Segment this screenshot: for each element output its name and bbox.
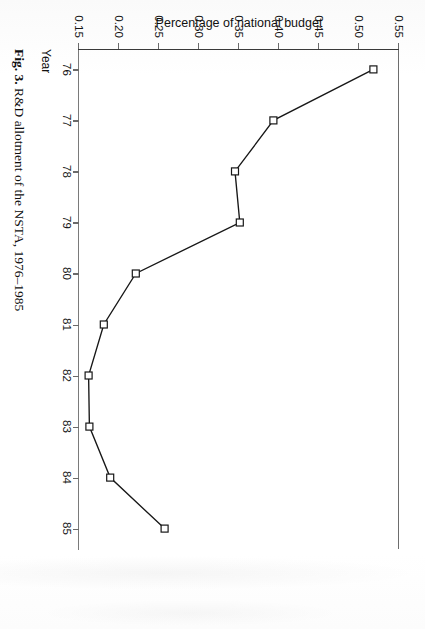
y-tick [358,43,359,49]
y-tick [78,43,79,49]
y-tick-label: 0.15 [73,15,85,38]
y-tick [158,43,159,49]
x-tick [73,69,79,70]
x-tick-label: 85 [61,522,73,535]
y-tick-label: 0.55 [393,15,405,38]
y-axis-line [78,49,399,50]
y-tick [118,43,119,49]
x-tick [73,273,79,274]
x-tick-label: 76 [61,63,73,76]
y-tick-label: 0.50 [353,15,365,38]
x-axis-line [78,49,79,550]
x-tick-label: 83 [61,420,73,433]
x-tick-label: 80 [61,267,73,280]
y-tick [238,43,239,49]
x-tick-label: 82 [61,369,73,382]
x-tick-label: 84 [61,471,73,484]
x-tick [73,376,79,377]
y-tick-label: 0.20 [113,15,125,38]
x-tick [73,529,79,530]
x-tick-label: 79 [61,216,73,229]
rotated-figure-stage: 76777879808182838485 0.550.500.450.400.3… [0,0,425,629]
x-tick [73,171,79,172]
x-tick-label: 78 [61,165,73,178]
y-tick [318,43,319,49]
figure-caption: Fig. 3. R&D allotment of the NSTA, 1976–… [11,49,27,569]
caption-label: Fig. 3. [12,49,27,85]
plot-frame [79,49,399,549]
y-tick [278,43,279,49]
x-tick [73,325,79,326]
figure: 76777879808182838485 0.550.500.450.400.3… [0,0,425,629]
y-tick [398,43,399,49]
x-tick [73,120,79,121]
x-tick [73,478,79,479]
y-axis-title: Percentage of national budget [156,16,323,30]
x-tick [73,427,79,428]
x-tick-label: 77 [61,114,73,127]
y-tick [198,43,199,49]
x-axis-title: Year [39,49,53,73]
x-tick [73,222,79,223]
caption-text: R&D allotment of the NSTA, 1976–1985 [12,88,27,311]
x-tick-label: 81 [61,318,73,331]
